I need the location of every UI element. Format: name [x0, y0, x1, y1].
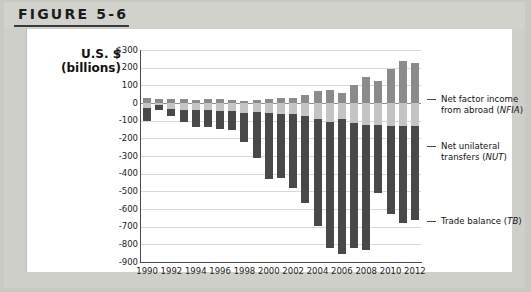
legend-label: Net factor incomefrom abroad (NFIA): [441, 94, 523, 115]
legend-label: Net unilateraltransfers (NUT): [441, 141, 507, 162]
legend-label-line: Net factor income: [441, 94, 523, 105]
legend-label-line: from abroad (NFIA): [441, 105, 523, 116]
chart-plate: U.S. $ (billions) $3002001000-100-200-30…: [26, 29, 512, 272]
legend-label-line: transfers (NUT): [441, 152, 507, 163]
chart-legend: Net factor incomefrom abroad (NFIA)Net u…: [427, 56, 531, 292]
figure-number-label: FIGURE 5-6: [18, 6, 128, 22]
legend-leader-line: [427, 221, 436, 222]
legend-leader-line: [427, 99, 436, 100]
legend-label: Trade balance (TB): [441, 216, 522, 227]
figure-container: FIGURE 5-6 U.S. $ (billions) $3002001000…: [4, 2, 525, 288]
legend-label-line: Trade balance (TB): [441, 216, 522, 227]
figure-header-rule: [14, 25, 129, 27]
legend-label-line: Net unilateral: [441, 141, 507, 152]
legend-leader-line: [427, 146, 436, 147]
figure-header: FIGURE 5-6: [4, 2, 525, 28]
